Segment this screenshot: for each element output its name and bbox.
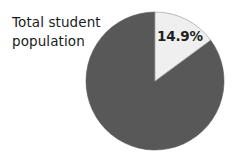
- pie-chart-svg: [0, 0, 237, 157]
- pie-chart-figure: Total student population 14.9%: [0, 0, 237, 157]
- pie-slice-percent-label: 14.9%: [157, 29, 203, 44]
